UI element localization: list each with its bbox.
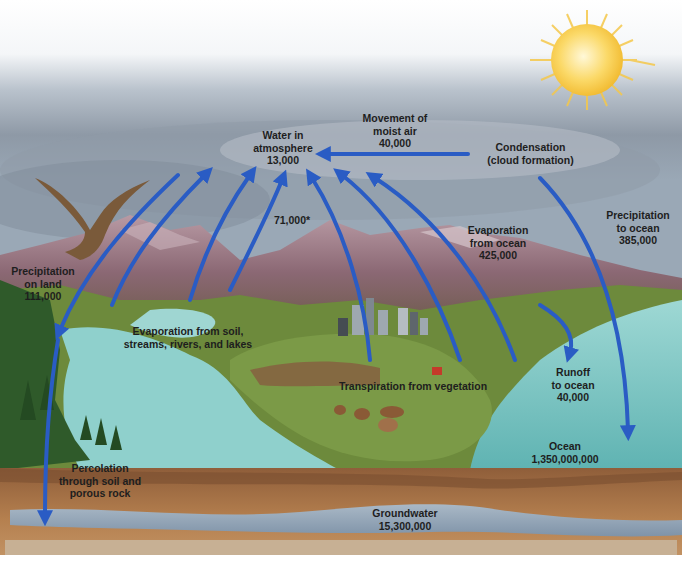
label-line: (cloud formation) — [478, 154, 583, 167]
label-line: Runoff — [540, 366, 606, 379]
label-line: Transpiration from vegetation — [338, 380, 488, 393]
label-line: Water in — [238, 129, 328, 142]
label-precipitation-to-ocean: Precipitation to ocean 385,000 — [598, 209, 678, 247]
label-value: 111,000 — [8, 290, 78, 303]
label-precipitation-on-land: Precipitation on land 111,000 — [8, 265, 78, 303]
label-transpiration: Transpiration from vegetation — [338, 380, 488, 393]
label-value: 425,000 — [458, 249, 538, 262]
label-value: 13,000 — [238, 154, 328, 167]
label-total-evaporation: 71,000* — [262, 214, 322, 227]
label-line: Precipitation — [8, 265, 78, 278]
label-movement-moist-air: Movement of moist air 40,000 — [350, 112, 440, 150]
label-runoff-to-ocean: Runoff to ocean 40,000 — [540, 366, 606, 404]
label-value: 40,000 — [350, 137, 440, 150]
label-condensation: Condensation (cloud formation) — [478, 141, 583, 166]
label-line: Movement of — [350, 112, 440, 125]
label-value: 71,000* — [262, 214, 322, 227]
label-water-in-atmosphere: Water in atmosphere 13,000 — [238, 129, 328, 167]
label-value: 40,000 — [540, 391, 606, 404]
label-value: 15,300,000 — [360, 520, 450, 533]
label-line: Condensation — [478, 141, 583, 154]
label-line: through soil and — [50, 475, 150, 488]
label-line: Precipitation — [598, 209, 678, 222]
label-value: 1,350,000,000 — [515, 453, 615, 466]
label-line: Percolation — [50, 462, 150, 475]
label-line: on land — [8, 278, 78, 291]
label-groundwater: Groundwater 15,300,000 — [360, 507, 450, 532]
label-evaporation-from-ocean: Evaporation from ocean 425,000 — [458, 224, 538, 262]
label-percolation: Percolation through soil and porous rock — [50, 462, 150, 500]
label-line: porous rock — [50, 487, 150, 500]
label-value: 385,000 — [598, 234, 678, 247]
label-line: Evaporation — [458, 224, 538, 237]
barn — [432, 367, 442, 375]
label-line: to ocean — [598, 222, 678, 235]
label-evaporation-from-soil: Evaporation from soil, streams, rivers, … — [108, 325, 268, 350]
label-line: atmosphere — [238, 142, 328, 155]
label-line: Evaporation from soil, — [108, 325, 268, 338]
label-line: Groundwater — [360, 507, 450, 520]
label-line: moist air — [350, 125, 440, 138]
label-line: to ocean — [540, 379, 606, 392]
label-line: Ocean — [515, 440, 615, 453]
label-ocean: Ocean 1,350,000,000 — [515, 440, 615, 465]
label-line: from ocean — [458, 237, 538, 250]
label-line: streams, rivers, and lakes — [108, 338, 268, 351]
